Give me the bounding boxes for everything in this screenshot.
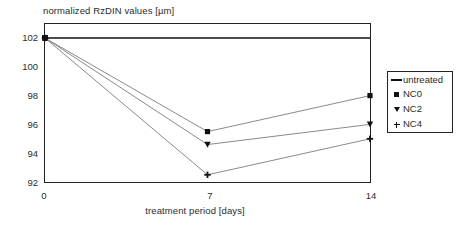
legend-label-nc0: NC0 [403, 87, 422, 100]
series-line-nc0 [45, 38, 370, 132]
data-point-origin-102 [42, 35, 48, 41]
square-symbol-icon [390, 87, 403, 100]
line-symbol-icon [390, 73, 403, 86]
triangle-down-symbol-icon [390, 102, 403, 115]
plus-symbol-icon [390, 117, 403, 130]
data-point-nc0-14 [367, 93, 372, 98]
data-point-nc4-14 [367, 136, 373, 142]
legend-item-nc4: NC4 [390, 117, 422, 130]
plot-frame [45, 24, 371, 183]
data-point-nc0-7 [205, 129, 210, 134]
legend-label-untreated: untreated [403, 73, 443, 86]
legend-label-nc4: NC4 [403, 117, 422, 130]
legend: untreated NC0 NC2 NC4 [387, 71, 453, 133]
legend-item-nc2: NC2 [390, 102, 422, 115]
legend-item-nc0: NC0 [390, 87, 422, 100]
series-line-nc2 [45, 38, 370, 145]
legend-label-nc2: NC2 [403, 102, 422, 115]
legend-item-untreated: untreated [390, 73, 443, 86]
series-layer [42, 35, 373, 178]
chart-figure: normalized RzDIN values [µm] 102 100 98 … [0, 0, 460, 227]
